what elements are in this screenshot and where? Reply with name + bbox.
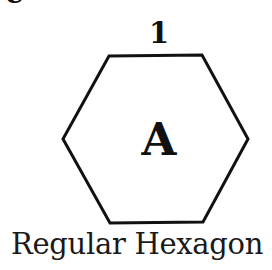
diagram-caption: Regular Hexagon	[0, 226, 272, 262]
hexagon-diagram: e 1 A Regular Hexagon	[0, 0, 272, 270]
area-label: A	[129, 117, 189, 163]
side-length-label: 1	[149, 18, 169, 48]
